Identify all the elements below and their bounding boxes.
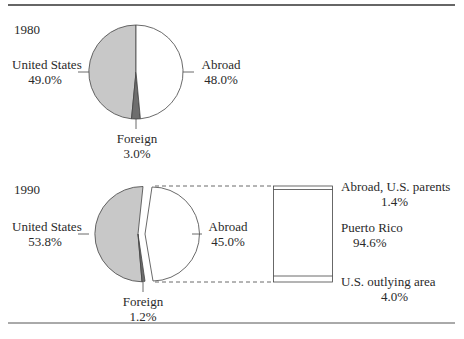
slice-abroad-1990 (145, 187, 199, 281)
pie-1980 (78, 25, 194, 129)
year-1980: 1980 (14, 22, 40, 37)
slice-us-1990 (95, 186, 143, 281)
label-parents: Abroad, U.S. parents 1.4% (341, 179, 450, 209)
label-us-1980: United States49.0% (12, 57, 78, 87)
label-abroad-1980: Abroad48.0% (196, 57, 246, 87)
slice-us-1980 (89, 25, 136, 119)
label-puerto-rico: Puerto Rico 94.6% (341, 220, 403, 250)
breakdown-bar (274, 186, 333, 282)
slice-abroad-1980 (136, 25, 183, 119)
label-foreign-1990: Foreign1.2% (118, 294, 168, 324)
label-abroad-1990: Abroad45.0% (203, 219, 253, 249)
year-1990: 1990 (14, 182, 40, 197)
label-foreign-1980: Foreign3.0% (112, 131, 162, 161)
label-outlying: U.S. outlying area 4.0% (341, 274, 436, 304)
label-us-1990: United States53.8% (12, 219, 78, 249)
